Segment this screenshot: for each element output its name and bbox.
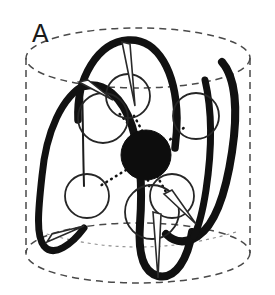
ligand-circle-L1 xyxy=(78,93,128,143)
molecular-diagram: A xyxy=(0,0,275,295)
figure-container: A xyxy=(0,0,275,295)
panel-label: A xyxy=(32,19,49,47)
metal-center-sphere xyxy=(121,130,171,180)
ligand-circle-L3 xyxy=(173,93,219,139)
ligand-circle-L4 xyxy=(65,174,109,218)
